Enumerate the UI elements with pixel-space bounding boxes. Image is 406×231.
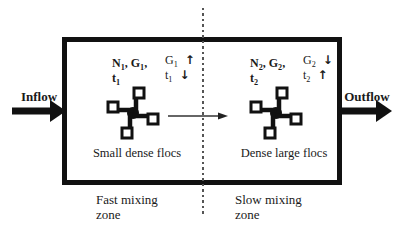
- inflow-arrow-icon: [12, 100, 66, 122]
- impeller-icon: [105, 85, 161, 141]
- slow-zone-parameters-line2: t2: [250, 71, 285, 86]
- down-arrow-icon: ↓: [323, 53, 333, 68]
- slow-g-indicator: G2 ↓: [303, 53, 333, 68]
- fast-zone-parameters-line1: N1, G1,: [112, 56, 147, 71]
- up-arrow-icon: ↑: [317, 68, 327, 83]
- fast-t-indicator: t1 ↓: [165, 68, 195, 83]
- fast-zone-parameters-line2: t1: [112, 71, 147, 86]
- impeller-icon: [248, 85, 304, 141]
- fast-g-indicator: G1 ↑: [165, 53, 195, 68]
- flocculation-tank-diagram: Inflow Outflow N1, G1, t1 G1 ↑ t1 ↓ N2, …: [0, 0, 406, 231]
- slow-zone-floc-description: Dense large flocs: [219, 146, 349, 161]
- slow-zone-label: Slow mixing zone: [235, 193, 302, 222]
- slow-zone-parameters-line1: N2, G2,: [250, 56, 285, 71]
- fast-zone-floc-description: Small dense flocs: [72, 146, 202, 161]
- down-arrow-icon: ↓: [179, 68, 189, 83]
- slow-zone-indicators: G2 ↓ t2 ↑: [303, 53, 333, 83]
- up-arrow-icon: ↑: [185, 53, 195, 68]
- fast-zone-parameters: N1, G1, t1: [112, 56, 147, 86]
- fast-zone-indicators: G1 ↑ t1 ↓: [165, 53, 195, 83]
- slow-zone-parameters: N2, G2, t2: [250, 56, 285, 86]
- fast-zone-label: Fast mixing zone: [96, 193, 158, 222]
- slow-t-indicator: t2 ↑: [303, 68, 333, 83]
- flow-direction-arrow-icon: [168, 110, 228, 122]
- outflow-arrow-icon: [338, 100, 392, 122]
